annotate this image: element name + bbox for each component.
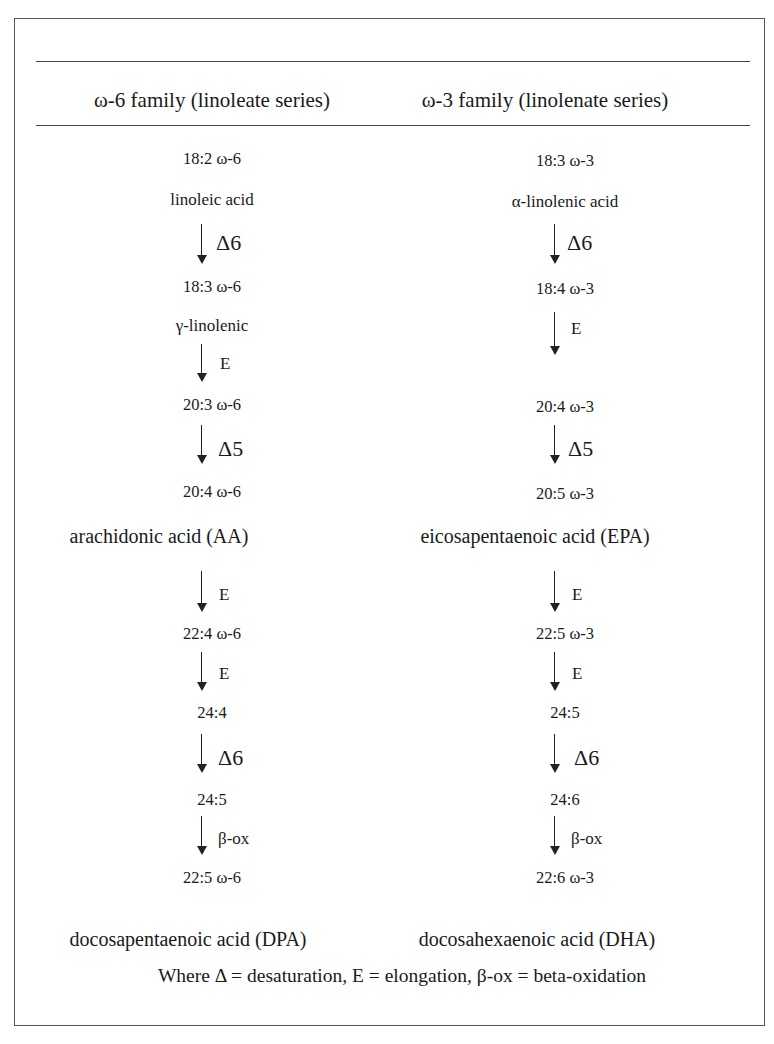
omega3-24-5: 24:5 bbox=[550, 705, 579, 722]
omega3-alpha-linolenic-acid: α-linolenic acid bbox=[512, 193, 619, 210]
omega6-24-5: 24:5 bbox=[197, 792, 226, 809]
beta-oxidation-label: β-ox bbox=[218, 830, 249, 847]
omega3-epa: eicosapentaenoic acid (EPA) bbox=[420, 526, 649, 546]
omega3-18-4: 18:4 ω-3 bbox=[536, 281, 594, 298]
omega3-22-5: 22:5 ω-3 bbox=[536, 626, 594, 643]
omega3-22-6: 22:6 ω-3 bbox=[536, 870, 594, 887]
elongase-label: E bbox=[219, 665, 229, 682]
elongase-label: E bbox=[220, 355, 230, 372]
elongase-label: E bbox=[219, 586, 229, 603]
desaturase-d6-label: Δ6 bbox=[574, 747, 599, 769]
elongase-label: E bbox=[572, 586, 582, 603]
omega6-18-2: 18:2 ω-6 bbox=[183, 151, 241, 168]
desaturase-d5-label: Δ5 bbox=[568, 438, 593, 460]
diagram-frame bbox=[14, 18, 765, 1026]
top-rule bbox=[36, 61, 750, 62]
omega3-20-5: 20:5 ω-3 bbox=[536, 486, 594, 503]
elongase-label: E bbox=[572, 665, 582, 682]
omega3-20-4: 20:4 ω-3 bbox=[536, 399, 594, 416]
omega6-header: ω-6 family (linoleate series) bbox=[94, 90, 330, 111]
legend: Where Δ = desaturation, E = elongation, … bbox=[158, 966, 646, 986]
omega6-20-4: 20:4 ω-6 bbox=[183, 484, 241, 501]
omega6-22-4: 22:4 ω-6 bbox=[183, 626, 241, 643]
omega3-24-6: 24:6 bbox=[550, 792, 579, 809]
omega6-22-5: 22:5 ω-6 bbox=[183, 870, 241, 887]
omega6-arachidonic-acid: arachidonic acid (AA) bbox=[70, 526, 249, 546]
omega3-dha: docosahexaenoic acid (DHA) bbox=[419, 929, 656, 949]
desaturase-d6-label: Δ6 bbox=[567, 232, 592, 254]
omega3-header: ω-3 family (linolenate series) bbox=[422, 90, 668, 111]
beta-oxidation-label: β-ox bbox=[571, 830, 602, 847]
desaturase-d6-label: Δ6 bbox=[216, 232, 241, 254]
elongase-label: E bbox=[571, 320, 581, 337]
desaturase-d6-label: Δ6 bbox=[218, 747, 243, 769]
omega6-gamma-linolenic: γ-linolenic bbox=[176, 317, 249, 334]
omega6-24-4: 24:4 bbox=[197, 705, 226, 722]
header-rule bbox=[36, 125, 750, 126]
omega6-dpa: docosapentaenoic acid (DPA) bbox=[70, 929, 307, 949]
omega6-18-3: 18:3 ω-6 bbox=[183, 279, 241, 296]
omega6-linoleic-acid: linoleic acid bbox=[170, 191, 254, 208]
desaturase-d5-label: Δ5 bbox=[218, 438, 243, 460]
omega3-18-3: 18:3 ω-3 bbox=[536, 153, 594, 170]
omega6-20-3: 20:3 ω-6 bbox=[183, 397, 241, 414]
